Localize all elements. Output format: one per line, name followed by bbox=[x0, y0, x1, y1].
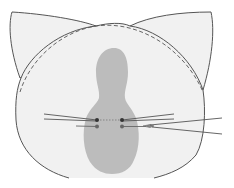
cat-face-diagram bbox=[0, 0, 234, 188]
suture-point-left-upper bbox=[95, 118, 99, 122]
suture-point-right-lower bbox=[120, 125, 124, 129]
suture-point-right-upper bbox=[120, 118, 124, 122]
suture-thread-left-lower bbox=[76, 126, 97, 127]
suture-point-left-lower bbox=[95, 125, 99, 129]
diagram-canvas bbox=[0, 0, 234, 188]
